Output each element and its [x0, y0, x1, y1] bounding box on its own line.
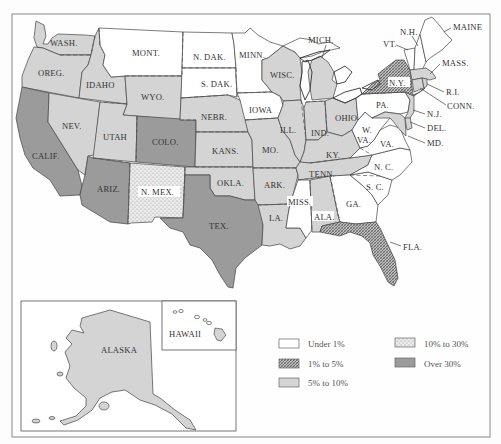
label-maine: MAINE — [453, 22, 482, 32]
label-ky: KY. — [326, 150, 340, 160]
label-wva-line1: W. — [362, 125, 372, 135]
alaska-island — [51, 341, 57, 351]
label-nc: N. C. — [374, 162, 393, 172]
label-fla: FLA. — [403, 242, 422, 252]
label-ariz: ARIZ. — [97, 184, 120, 194]
hawaii-island — [207, 321, 212, 324]
label-hawaii: HAWAII — [169, 329, 201, 339]
label-del: DEL. — [427, 123, 447, 133]
legend-item-under-1: Under 1% — [279, 339, 345, 349]
label-nmex: N. MEX. — [141, 187, 174, 197]
label-okla: OKLA. — [217, 178, 244, 188]
label-utah: UTAH — [103, 132, 127, 142]
map-canvas: WASH. OREG. IDAHO MONT. WYO. NEV. UTAH C… — [0, 0, 501, 444]
label-ny: N.Y. — [389, 78, 405, 88]
label-ill: ILL. — [280, 125, 296, 135]
label-minn: MINN. — [239, 50, 265, 60]
legend-label: Over 30% — [424, 359, 461, 369]
label-ri: R.I. — [446, 87, 460, 97]
label-mass: MASS. — [442, 58, 469, 68]
legend-item-5-to-10: 5% to 10% — [279, 378, 348, 388]
hawaii-island — [195, 315, 200, 318]
label-tenn: TENN. — [309, 169, 335, 179]
label-wva-line2: VA. — [357, 135, 371, 145]
legend-swatch-hatched — [279, 359, 299, 368]
label-nj: N.J. — [427, 109, 442, 119]
hawaii-island — [203, 319, 207, 322]
hawaii-island — [179, 309, 183, 312]
legend-label: Under 1% — [308, 339, 345, 349]
label-ala: ALA. — [314, 212, 335, 222]
label-ark: ARK. — [264, 180, 285, 190]
label-md: MD. — [427, 138, 444, 148]
legend-label: 5% to 10% — [308, 378, 348, 388]
hawaii-inset: HAWAII — [162, 301, 236, 350]
label-conn: CONN. — [447, 101, 475, 111]
label-la: LA. — [269, 213, 283, 223]
label-nh: N.H. — [400, 27, 418, 37]
label-mo: MO. — [262, 145, 279, 155]
label-tex: TEX. — [209, 221, 229, 231]
label-oreg: OREG. — [38, 68, 65, 78]
hawaii-island — [173, 311, 177, 314]
legend-swatch-light-gray — [279, 378, 299, 387]
label-nev: NEV. — [62, 121, 82, 131]
label-kans: KANS. — [212, 146, 239, 156]
label-iowa: IOWA — [249, 105, 273, 115]
legend-item-1-to-5: 1% to 5% — [279, 359, 344, 369]
legend-swatch-dark-gray — [395, 358, 415, 367]
label-ga: GA. — [346, 199, 361, 209]
label-pa: PA. — [376, 100, 389, 110]
label-colo: COLO. — [152, 137, 179, 147]
legend-swatch-white — [279, 339, 299, 348]
us-choropleth-map: WASH. OREG. IDAHO MONT. WYO. NEV. UTAH C… — [0, 0, 501, 444]
label-vt: VT. — [383, 39, 397, 49]
legend-swatch-stippled — [395, 338, 415, 347]
alaska-island — [99, 402, 109, 410]
label-mont: MONT. — [132, 48, 160, 58]
state-north-dakota — [182, 32, 236, 68]
label-ndak: N. DAK. — [193, 52, 226, 62]
label-sdak: S. DAK. — [201, 79, 232, 89]
label-wash: WASH. — [50, 38, 78, 48]
label-ohio: OHIO — [335, 113, 357, 123]
label-idaho: IDAHO — [86, 80, 115, 90]
label-mich: MICH. — [308, 35, 334, 45]
label-wisc: WISC. — [270, 70, 295, 80]
alaska-island — [32, 419, 40, 423]
label-va: VA. — [380, 139, 394, 149]
label-ind: IND. — [311, 128, 329, 138]
label-alaska: ALASKA — [101, 345, 138, 355]
alaska-island — [57, 372, 63, 376]
label-wyo: WYO. — [141, 92, 164, 102]
legend-label: 1% to 5% — [308, 359, 344, 369]
label-sc: S. C. — [366, 182, 384, 192]
alaska-island — [49, 417, 55, 420]
label-miss: MISS. — [288, 197, 311, 207]
legend-label: 10% to 30% — [424, 339, 469, 349]
label-nebr: NEBR. — [201, 112, 227, 122]
label-calif: CALIF. — [32, 151, 60, 161]
hawaii-inset-frame — [162, 301, 236, 350]
